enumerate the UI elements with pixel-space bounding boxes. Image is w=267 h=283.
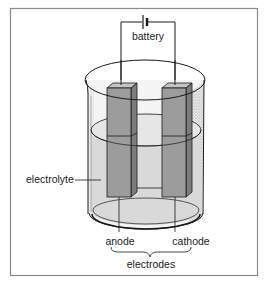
cathode-electrode: [162, 83, 192, 197]
electrolytic-cell-diagram: battery: [0, 0, 267, 283]
electrodes-label: electrodes: [127, 258, 175, 270]
anode-label: anode: [105, 235, 134, 247]
battery-label: battery: [132, 30, 165, 42]
electrolyte-label: electrolyte: [26, 173, 74, 185]
cathode-label: cathode: [172, 235, 210, 247]
